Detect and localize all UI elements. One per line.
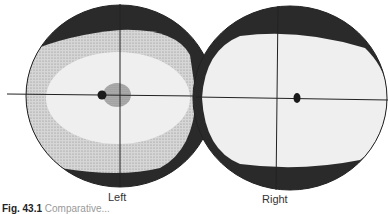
caption-text: Comparative...: [45, 203, 110, 214]
figure-number: Fig. 43.1: [2, 203, 42, 214]
left-eye-label: Left: [108, 191, 126, 203]
visual-field-diagram: [0, 0, 390, 200]
left-blind-spot: [98, 91, 107, 100]
left-eye-field: [7, 4, 214, 187]
right-eye-field: [193, 6, 388, 190]
figure-caption: Fig. 43.1 Comparative...: [2, 203, 110, 214]
right-eye-label: Right: [262, 193, 288, 205]
right-blind-spot: [294, 93, 301, 103]
